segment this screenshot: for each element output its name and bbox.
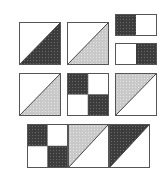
half-square-triangle-block xyxy=(68,124,109,168)
half-square-triangle-block xyxy=(109,124,150,168)
hst-light-2-shape xyxy=(20,74,60,115)
two-patch-1-shape xyxy=(116,15,156,35)
two-patch-block xyxy=(115,43,157,65)
half-square-triangle-block xyxy=(19,73,61,116)
hst-dark-2-shape xyxy=(110,125,149,167)
hst-dark-1-shape xyxy=(20,23,60,64)
hst-light-3-shape xyxy=(116,74,156,115)
two-patch-block xyxy=(115,14,157,36)
half-square-triangle-block xyxy=(67,22,109,65)
four-patch-1-shape xyxy=(68,74,108,115)
two-patch-2-shape xyxy=(116,44,156,64)
half-square-triangle-block xyxy=(19,22,61,65)
four-patch-block xyxy=(67,73,109,116)
hst-light-4-shape xyxy=(69,125,108,167)
hst-light-1-shape xyxy=(68,23,108,64)
four-patch-2-shape xyxy=(28,125,67,167)
half-square-triangle-block xyxy=(115,73,157,116)
four-patch-block xyxy=(27,124,68,168)
